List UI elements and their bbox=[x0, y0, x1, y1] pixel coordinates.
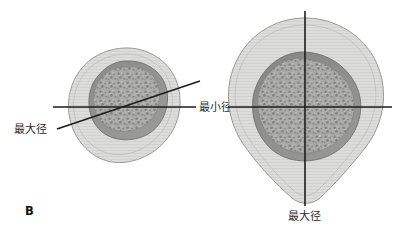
panel-letter: B bbox=[25, 204, 34, 218]
minor-axis-label: 最小径 bbox=[199, 101, 232, 114]
figure-panel-b: 最大径 最小径 最大径 B bbox=[0, 0, 411, 241]
left-major-axis-label: 最大径 bbox=[14, 122, 47, 136]
left-section-group: 最大径 bbox=[14, 48, 200, 163]
right-major-axis-label: 最大径 bbox=[288, 209, 321, 223]
diagram-canvas: 最大径 最小径 最大径 B bbox=[0, 0, 411, 241]
right-section-group: 最大径 bbox=[228, 11, 392, 223]
